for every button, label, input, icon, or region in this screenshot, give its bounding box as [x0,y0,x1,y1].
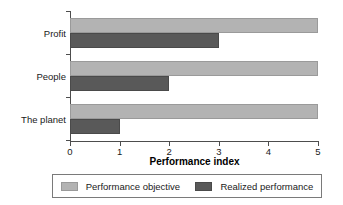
category-label-2: The planet [0,114,66,125]
bar-realized-0 [70,33,219,48]
y-axis-tick-top [66,11,70,12]
bar-realized-2 [70,119,120,134]
y-axis-tick-2 [66,140,70,141]
bar-realized-1 [70,76,169,91]
legend-label-objective: Performance objective [86,181,181,192]
category-label-0: Profit [0,28,66,39]
x-axis-line [70,141,319,142]
bar-objective-2 [70,104,318,119]
category-label-1: People [0,71,66,82]
bar-objective-0 [70,18,318,33]
bar-objective-1 [70,61,318,76]
legend-item-realized-performance: Realized performance [195,181,313,192]
bar-chart: ProfitPeopleThe planet 012345 Performanc… [0,0,343,205]
legend: Performance objective Realized performan… [52,174,322,198]
y-axis-tick-0 [66,54,70,55]
legend-label-realized: Realized performance [220,181,313,192]
legend-swatch-objective-icon [61,182,78,191]
y-axis-tick-1 [66,97,70,98]
legend-swatch-realized-icon [195,182,212,191]
legend-item-performance-objective: Performance objective [61,181,181,192]
x-axis-title: Performance index [70,156,319,167]
plot-area [70,14,318,141]
